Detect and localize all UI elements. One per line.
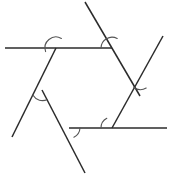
upper-right-diagonal-line: [85, 2, 140, 96]
figure-angle-arcs-group: [33, 37, 146, 137]
right-descending-diagonal-line: [112, 36, 163, 128]
figure-lines-group: [5, 2, 167, 173]
arc-bottom-left: [74, 128, 80, 137]
lower-left-diagonal-line: [42, 90, 85, 173]
arc-bottom-right: [101, 118, 107, 128]
left-ascending-diagonal-line: [12, 48, 56, 137]
geometry-diagram: [0, 0, 171, 177]
geometry-figure-canvas: [0, 0, 171, 177]
arc-top-left: [45, 37, 61, 52]
